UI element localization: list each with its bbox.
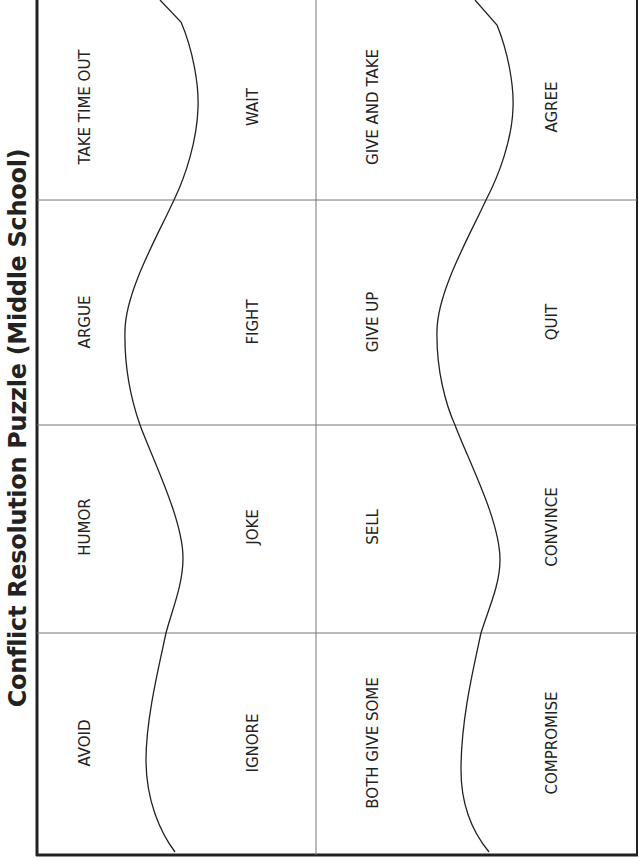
cut-line-wave-left [125,0,198,852]
puzzle-piece-label: AGREE [543,82,561,133]
puzzle-piece-label: GIVE AND TAKE [364,49,382,165]
puzzle-piece-label: QUIT [543,304,561,340]
puzzle-piece-label: HUMOR [76,498,94,555]
cut-line-wave-right [437,0,513,852]
puzzle-piece-label: ARGUE [76,296,94,349]
puzzle-piece-label: COMPROMISE [543,692,561,795]
puzzle-piece-label: JOKE [244,509,262,545]
puzzle-sheet: Conflict Resolution Puzzle (Middle Schoo… [0,0,639,861]
puzzle-piece-label: FIGHT [244,299,262,344]
puzzle-piece-label: WAIT [244,88,262,126]
puzzle-piece-label: AVOID [76,719,94,766]
puzzle-piece-label: SELL [364,509,382,545]
puzzle-piece-label: BOTH GIVE SOME [364,677,382,808]
puzzle-piece-label: IGNORE [244,714,262,773]
page-title: Conflict Resolution Puzzle (Middle Schoo… [4,149,32,708]
puzzle-piece-label: GIVE UP [364,292,382,353]
puzzle-piece-label: CONVINCE [543,487,561,566]
puzzle-piece-label: TAKE TIME OUT [76,49,94,164]
